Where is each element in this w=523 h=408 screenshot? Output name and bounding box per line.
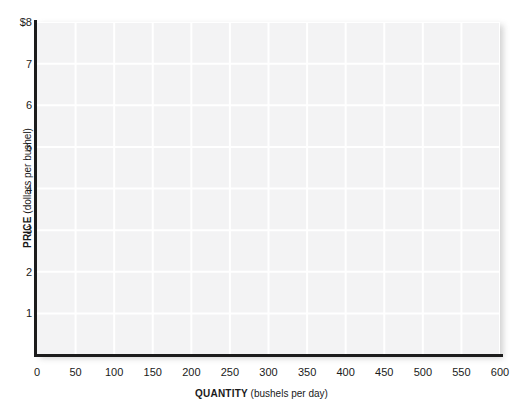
y-axis-title: PRICE (dollars per bushel) bbox=[22, 88, 34, 288]
x-tick-label: 350 bbox=[287, 366, 327, 378]
x-tick-label: 450 bbox=[364, 366, 404, 378]
x-tick-label: 150 bbox=[133, 366, 173, 378]
x-tick-label: 600 bbox=[480, 366, 520, 378]
y-axis-title-soft: (dollars per bushel) bbox=[22, 128, 33, 214]
chart-figure: $87654321 050100150200250300350400450500… bbox=[0, 0, 523, 408]
x-tick-label: 550 bbox=[441, 366, 481, 378]
x-tick-label: 50 bbox=[56, 366, 96, 378]
x-tick-label: 250 bbox=[210, 366, 250, 378]
x-axis-title-soft: (bushels per day) bbox=[251, 388, 328, 399]
x-tick-label: 400 bbox=[326, 366, 366, 378]
x-tick-label: 300 bbox=[249, 366, 289, 378]
x-axis-title-strong: QUANTITY bbox=[195, 388, 248, 399]
x-tick-label: 0 bbox=[17, 366, 57, 378]
x-axis-title: QUANTITY (bushels per day) bbox=[0, 388, 523, 400]
x-axis-tick-labels: 050100150200250300350400450500550600 bbox=[0, 0, 523, 408]
x-tick-label: 200 bbox=[171, 366, 211, 378]
y-axis-title-strong: PRICE bbox=[22, 216, 33, 248]
x-tick-label: 500 bbox=[403, 366, 443, 378]
x-tick-label: 100 bbox=[94, 366, 134, 378]
